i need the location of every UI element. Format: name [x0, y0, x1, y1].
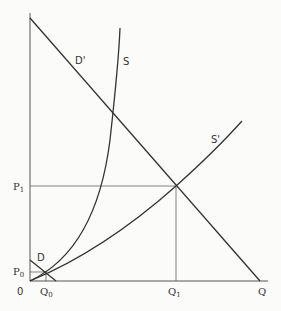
supply-shifted-curve [30, 121, 242, 281]
q0-label: Q0 [40, 286, 53, 299]
origin-label: 0 [17, 286, 23, 297]
x-axis-label: Q [258, 286, 266, 297]
demand-shifted-label: D' [75, 55, 85, 66]
p1-label: P1 [13, 181, 24, 194]
q1-label: Q1 [168, 286, 181, 299]
supply-demand-diagram: D' S S' D P1 P0 0 Q0 Q1 Q [0, 0, 281, 311]
supply-original-label: S [123, 56, 129, 67]
demand-original-label: D [37, 252, 45, 263]
demand-shifted-curve [30, 18, 260, 281]
supply-shifted-label: S' [211, 134, 220, 145]
p0-label: P0 [13, 266, 24, 279]
